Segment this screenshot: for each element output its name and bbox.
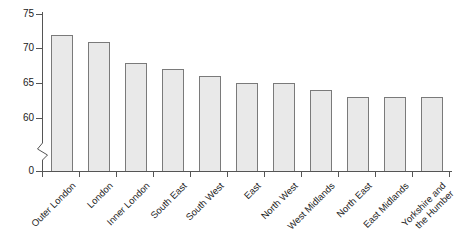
x-tick-mark bbox=[42, 172, 43, 177]
x-category-label-outer-london: Outer London bbox=[0, 180, 77, 248]
x-tick-mark bbox=[79, 172, 80, 177]
bar-east bbox=[236, 83, 258, 171]
bar-inner-london bbox=[125, 63, 147, 171]
x-tick-mark bbox=[301, 172, 302, 177]
bar-outer-london bbox=[51, 35, 73, 171]
bar-north-east bbox=[347, 97, 369, 171]
bar-north-west bbox=[273, 83, 295, 171]
x-axis-line bbox=[42, 171, 452, 172]
x-tick-mark bbox=[412, 172, 413, 177]
bar-south-east bbox=[162, 69, 184, 171]
y-tick-label-70: 70 bbox=[0, 43, 34, 53]
y-tick-label-60: 60 bbox=[0, 113, 34, 123]
x-tick-mark bbox=[190, 172, 191, 177]
x-tick-mark bbox=[116, 172, 117, 177]
bar-chart: 75 70 65 60 0 Outer London London Inner … bbox=[0, 0, 456, 248]
bar-yorkshire-humber bbox=[421, 97, 443, 171]
x-tick-mark bbox=[338, 172, 339, 177]
x-tick-mark bbox=[375, 172, 376, 177]
y-tick-label-65: 65 bbox=[0, 78, 34, 88]
y-tick-label-0: 0 bbox=[0, 166, 34, 176]
bar-west-midlands bbox=[310, 90, 332, 171]
y-tick-label-75: 75 bbox=[0, 9, 34, 19]
x-tick-mark bbox=[153, 172, 154, 177]
x-tick-mark bbox=[227, 172, 228, 177]
x-tick-mark bbox=[449, 172, 450, 177]
bar-london bbox=[88, 42, 110, 171]
x-tick-mark bbox=[264, 172, 265, 177]
axis-break-icon bbox=[35, 138, 51, 164]
bar-south-west bbox=[199, 76, 221, 171]
bar-east-midlands bbox=[384, 97, 406, 171]
